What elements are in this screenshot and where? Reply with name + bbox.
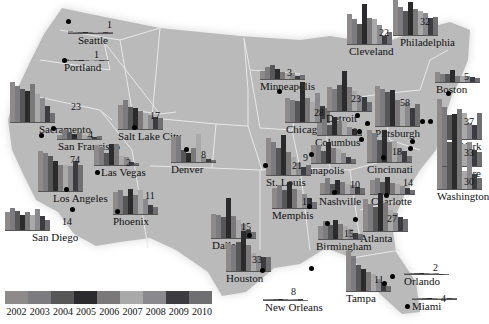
legend-label-2002: 2002 — [5, 306, 28, 317]
legend-label-2010: 2010 — [191, 306, 214, 317]
bar-2010 — [367, 102, 372, 111]
city-location-dot — [446, 91, 451, 96]
city-name-label: Houston — [226, 273, 263, 284]
bar-2010 — [410, 190, 415, 194]
bar-2010 — [45, 220, 50, 230]
city-name-label: Phoenix — [113, 216, 149, 227]
city-location-dot — [325, 221, 330, 226]
city-name-label: Cleveland — [349, 46, 394, 57]
city-bar-chart — [64, 20, 109, 61]
city-location-dot — [277, 89, 282, 94]
city-value-label: 14 — [403, 178, 413, 188]
legend-swatch-2003 — [28, 291, 51, 304]
bar-2010 — [403, 219, 408, 231]
city-value-label: 10 — [350, 180, 360, 190]
city-value-label: 14 — [62, 217, 72, 227]
legend-label-2009: 2009 — [167, 306, 190, 317]
legend-swatch-2007 — [120, 291, 143, 304]
bar-2010 — [50, 113, 55, 122]
bar-2010 — [78, 165, 83, 191]
city-location-dot — [132, 125, 137, 130]
city-value-label: 32 — [420, 17, 430, 27]
city-bar-chart — [318, 199, 363, 240]
legend-swatch-2002 — [5, 291, 28, 304]
city-location-dot — [62, 58, 67, 63]
city-location-dot — [309, 266, 314, 271]
city-location-dot — [51, 126, 56, 131]
legend-swatch-2008 — [143, 291, 166, 304]
legend-swatch-2004 — [51, 291, 74, 304]
legend-label-2007: 2007 — [121, 306, 144, 317]
city-location-dot — [405, 304, 410, 309]
bar-2010 — [475, 78, 480, 82]
city-value-label: 11 — [145, 191, 155, 201]
city-value-label: 33 — [252, 255, 262, 265]
city-name-label: San Diego — [32, 232, 78, 243]
legend-label-2006: 2006 — [98, 306, 121, 317]
city-location-dot — [359, 137, 364, 142]
city-value-label: 1 — [94, 50, 99, 60]
city-name-label: Denver — [171, 164, 203, 175]
bar-2010 — [134, 163, 139, 165]
bar-2010 — [386, 286, 391, 291]
city-name-label: Portland — [64, 62, 101, 73]
city-value-label: 22 — [379, 28, 389, 38]
city-location-dot — [70, 207, 75, 212]
city-value-label: 27 — [387, 214, 397, 224]
city-bar-chart — [347, 4, 392, 45]
bar-2010 — [300, 75, 305, 79]
city-location-dot — [332, 190, 337, 195]
city-bar-chart — [10, 82, 55, 123]
city-bar-chart — [370, 154, 415, 195]
city-name-label: New Orleans — [265, 302, 323, 313]
bar-2010 — [211, 160, 216, 162]
city-value-label: 4 — [88, 130, 93, 140]
bar-2010 — [452, 298, 457, 299]
city-name-label: Boston — [436, 84, 467, 95]
city-name-label: Los Angeles — [53, 193, 108, 204]
city-location-dot — [64, 187, 69, 192]
legend-swatch-2010 — [189, 291, 212, 304]
bar-2010 — [433, 17, 438, 35]
bar-2010 — [312, 202, 317, 208]
city-value-label: 8 — [291, 287, 296, 297]
legend-color-bar — [5, 291, 212, 304]
city-bar-chart — [375, 86, 420, 127]
city-bar-chart — [260, 39, 305, 80]
city-location-dot — [428, 119, 433, 124]
city-location-dot — [357, 129, 362, 134]
legend-swatch-2005 — [74, 291, 97, 304]
city-location-dot — [184, 147, 189, 152]
city-value-label: 8 — [201, 150, 206, 160]
city-bar-chart — [171, 122, 216, 163]
legend-swatch-2009 — [166, 291, 189, 304]
legend-label-2003: 2003 — [28, 306, 51, 317]
bar-2010 — [415, 104, 420, 126]
city-location-dot — [115, 209, 120, 214]
city-name-label: Memphis — [272, 210, 314, 221]
bar-2010 — [477, 178, 482, 189]
city-value-label: 74 — [70, 155, 80, 165]
city-value-label: 5 — [464, 72, 469, 82]
city-value-label: 30 — [464, 177, 474, 187]
city-location-dot — [95, 170, 100, 175]
city-value-label: 4 — [441, 294, 446, 304]
city-location-dot — [39, 133, 44, 138]
legend-label-2008: 2008 — [144, 306, 167, 317]
city-location-dot — [307, 204, 312, 209]
bar-2010 — [358, 234, 363, 239]
city-value-label: 3 — [287, 68, 292, 78]
city-location-dot — [390, 274, 395, 279]
legend-label-2005: 2005 — [75, 306, 98, 317]
city-bar-chart — [263, 260, 308, 301]
city-location-dot — [382, 281, 387, 286]
city-bar-chart — [393, 0, 438, 36]
city-bar-chart — [412, 259, 457, 300]
city-value-label: 15 — [344, 229, 354, 239]
city-bar-chart — [435, 42, 480, 83]
city-value-label: 58 — [400, 98, 410, 108]
city-location-dot — [263, 163, 268, 168]
city-value-label: 17 — [150, 111, 160, 121]
city-name-label: Miami — [412, 301, 441, 312]
city-bar-chart — [437, 149, 482, 190]
